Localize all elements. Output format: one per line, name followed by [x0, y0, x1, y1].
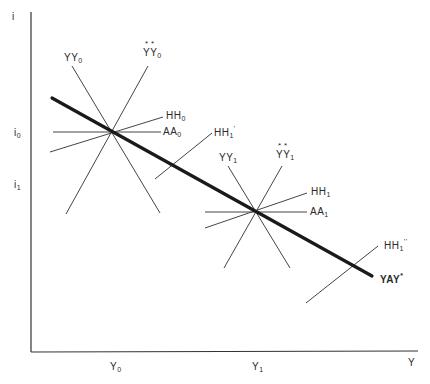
label-yy-star0: YY**0: [143, 48, 162, 59]
label-hh-doubleprime1: HH1'': [384, 238, 408, 252]
hh0-line: [50, 117, 163, 152]
label-hh-prime1: HH1': [214, 125, 236, 139]
yy-star1-line: [224, 166, 282, 268]
label-yy1: YY1: [219, 153, 238, 164]
label-yay-star: YAY*: [380, 272, 403, 285]
y-tick-i0: i0: [14, 128, 21, 139]
x-tick-y0: Y0: [110, 362, 122, 373]
label-hh0: HH0: [166, 111, 186, 122]
x-axis-label: Y: [408, 358, 415, 368]
label-hh1: HH1: [311, 187, 331, 198]
y-tick-i1: i1: [14, 180, 21, 191]
yy0-line: [72, 66, 160, 213]
label-yy0: YY0: [64, 53, 83, 64]
label-aa1: AA1: [310, 207, 329, 218]
label-aa0: AA0: [163, 127, 182, 138]
x-axis: [31, 351, 418, 352]
yy-star0-line: [66, 66, 148, 214]
x-tick-y1: Y1: [252, 362, 264, 373]
y-axis-label: i: [12, 12, 15, 22]
label-yy-star1: YY**1: [276, 150, 295, 161]
